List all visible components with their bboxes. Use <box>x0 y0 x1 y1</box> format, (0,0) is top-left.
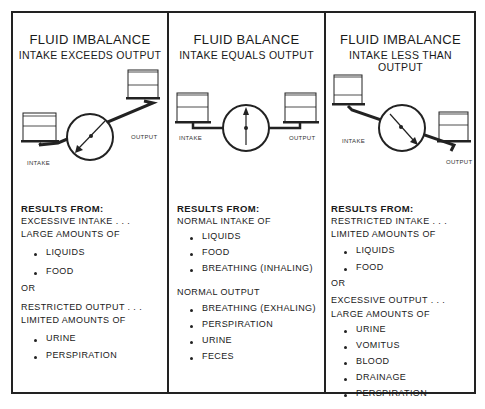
intake-container-icon <box>332 75 365 106</box>
scale-diagram: INTAKE OUTPUT <box>169 65 324 175</box>
panel-intake-equals-output: FLUID BALANCE INTAKE EQUALS OUTPUT INTAK… <box>169 13 324 392</box>
results-section: RESULTS FROM: EXCESSIVE INTAKE . . . LAR… <box>21 203 142 361</box>
or-connector: OR <box>21 283 142 294</box>
output-container-icon <box>283 93 319 124</box>
results-section: RESULTS FROM: RESTRICTED INTAKE . . . LI… <box>331 203 447 399</box>
gauge-dial-icon <box>379 105 425 151</box>
list-item: FOOD <box>331 262 447 273</box>
list-item: URINE <box>177 335 316 346</box>
intake-label: INTAKE <box>342 138 365 144</box>
intake-container-icon <box>21 113 59 143</box>
list-item: BREATHING (EXHALING) <box>177 303 316 314</box>
scale-diagram: OUTPUT INTAKE <box>13 65 167 175</box>
output-label: OUTPUT <box>131 134 157 140</box>
list-item: PERSPIRATION <box>177 319 316 330</box>
list-item: LIQUIDS <box>177 231 316 242</box>
scale-diagram: INTAKE OUTPUT <box>326 65 475 175</box>
list-item: FOOD <box>21 266 142 277</box>
cause-line: LARGE AMOUNTS OF <box>331 309 447 320</box>
list-item: LIQUIDS <box>21 247 142 258</box>
panel-subtitle: INTAKE EXCEEDS OUTPUT <box>13 49 167 61</box>
list-item: URINE <box>331 324 447 335</box>
cause-line: RESTRICTED INTAKE . . . <box>331 216 447 227</box>
output-container-icon <box>126 70 160 100</box>
output-container-icon <box>437 112 471 143</box>
panel-title: FLUID IMBALANCE <box>13 32 167 47</box>
list-item: PERSPIRATION <box>21 350 142 361</box>
output-label: OUTPUT <box>289 135 315 141</box>
results-section: RESULTS FROM: NORMAL INTAKE OF LIQUIDS F… <box>177 203 316 362</box>
intake-label: INTAKE <box>179 135 202 141</box>
list-item: DRAINAGE <box>331 372 447 383</box>
cause-line: LIMITED AMOUNTS OF <box>331 229 447 240</box>
panel-subtitle: INTAKE EQUALS OUTPUT <box>169 49 324 61</box>
list-item: FOOD <box>177 247 316 258</box>
results-heading: RESULTS FROM: <box>177 203 316 214</box>
gauge-dial-icon <box>223 105 269 151</box>
cause-line: LARGE AMOUNTS OF <box>21 229 142 240</box>
panel-title: FLUID IMBALANCE <box>326 32 475 47</box>
list-item: VOMITUS <box>331 340 447 351</box>
cause-line: EXCESSIVE OUTPUT . . . <box>331 295 447 306</box>
list-item: BLOOD <box>331 356 447 367</box>
panel-intake-less-than-output: FLUID IMBALANCE INTAKE LESS THAN OUTPUT … <box>326 13 475 392</box>
gauge-dial-icon <box>67 114 113 160</box>
panel-intake-exceeds-output: FLUID IMBALANCE INTAKE EXCEEDS OUTPUT OU… <box>13 13 167 392</box>
or-connector: OR <box>331 278 447 289</box>
cause-line: NORMAL OUTPUT <box>177 287 316 298</box>
output-label: OUTPUT <box>446 159 472 165</box>
list-item: URINE <box>21 333 142 344</box>
cause-line: RESTRICTED OUTPUT . . . <box>21 302 142 313</box>
cause-line: LIMITED AMOUNTS OF <box>21 315 142 326</box>
cause-line: NORMAL INTAKE OF <box>177 216 316 227</box>
results-heading: RESULTS FROM: <box>21 203 142 214</box>
results-heading: RESULTS FROM: <box>331 203 447 214</box>
list-item: FECES <box>177 351 316 362</box>
panel-title: FLUID BALANCE <box>169 32 324 47</box>
cause-line: EXCESSIVE INTAKE . . . <box>21 216 142 227</box>
list-item: LIQUIDS <box>331 245 447 256</box>
list-item: BREATHING (INHALING) <box>177 263 316 274</box>
list-item: PERSPIRATION <box>331 388 447 399</box>
intake-label: INTAKE <box>27 160 50 166</box>
intake-container-icon <box>175 93 211 124</box>
